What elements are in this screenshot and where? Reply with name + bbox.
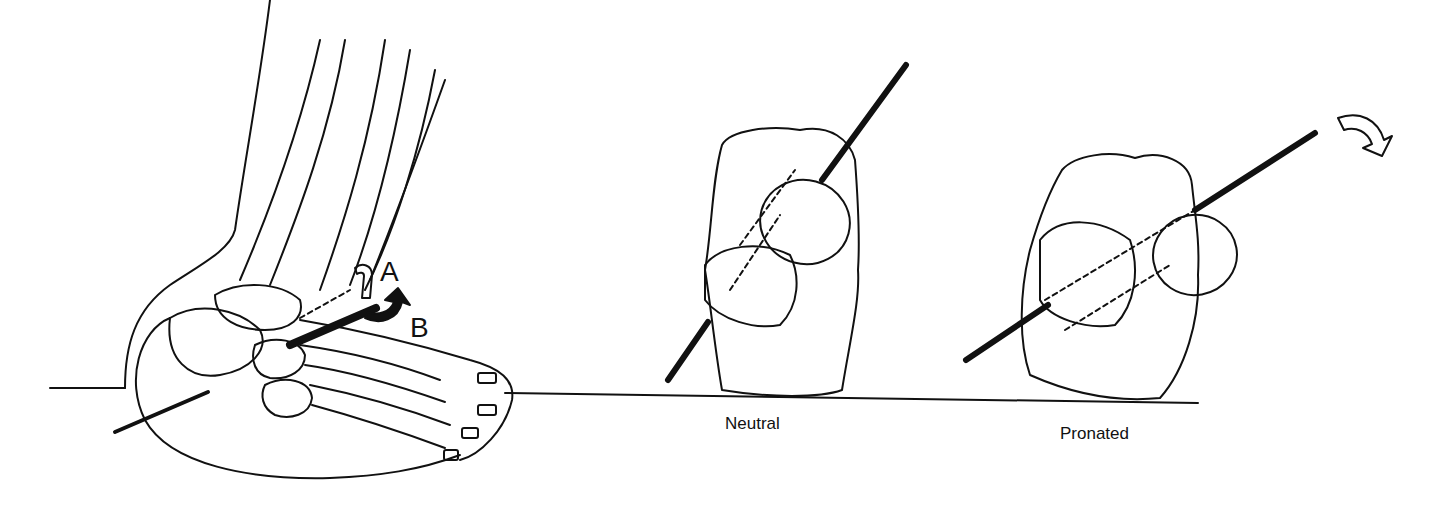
pronated-rod-upper: [1195, 133, 1315, 210]
neutral-rod-lower: [668, 322, 708, 380]
heel-pin: [115, 392, 208, 432]
caption-neutral: Neutral: [725, 414, 780, 434]
neutral-rod-upper: [822, 65, 906, 180]
pronated-rod-lower: [966, 305, 1048, 360]
subtalar-neutral-drawing: [705, 128, 859, 396]
foot-lateral-drawing: [125, 0, 512, 478]
subtalar-pronated-drawing: [1022, 154, 1244, 399]
foot-anatomy-diagram: [0, 0, 1438, 506]
label-a: A: [380, 256, 399, 288]
rotation-arrow-icon: [1338, 115, 1392, 156]
label-b: B: [410, 312, 429, 344]
subtalar-axis-rod: [290, 308, 376, 345]
caption-pronated: Pronated: [1060, 424, 1129, 444]
arrow-b-icon: [365, 288, 410, 321]
